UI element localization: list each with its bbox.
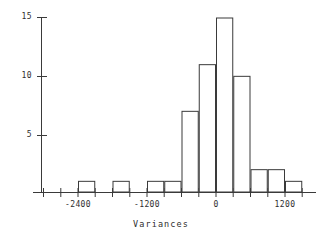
y-tick-label-5: 5 [12,131,32,139]
histogram-bar [234,76,250,192]
x-tick-label-minus2400: -2400 [65,201,91,209]
y-tick-label-10: 10 [12,72,32,80]
x-tick-label-1200: 1200 [275,201,296,209]
histogram-bar [199,65,215,192]
histogram-bar [79,181,95,192]
histogram-bar [113,181,129,192]
x-tick-label-minus1200: -1200 [134,201,160,209]
histogram-bar [217,18,233,192]
y-tick-label-15: 15 [12,13,32,21]
histogram-bar [182,111,198,192]
histogram-figure: 15 10 5 -2400 -1200 0 1200 Variances [0,0,322,241]
x-axis-title: Variances [0,219,322,229]
x-tick-label-zero: 0 [213,201,218,209]
histogram-bars [79,18,302,192]
histogram-bar [268,170,284,192]
histogram-bar [148,181,164,192]
histogram-bar [286,181,302,192]
histogram-bar [165,181,181,192]
histogram-bar [251,170,267,192]
